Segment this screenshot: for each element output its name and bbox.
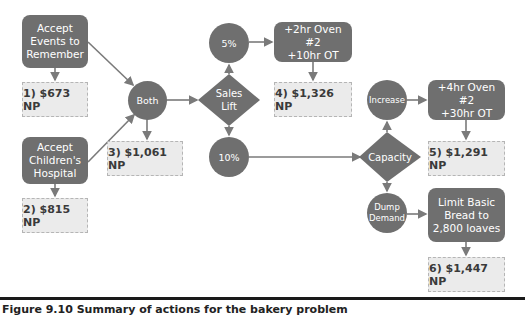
result-6-box: 6) $1,447 NP [428, 257, 505, 292]
result-3-box: 3) $1,061 NP [107, 141, 183, 176]
event-10pct-circle: 10% [209, 137, 249, 177]
edge-accept-events-to-both [88, 42, 133, 85]
result-5-box: 5) $1,291 NP [428, 141, 505, 176]
decision-sales-lift-label: Sales Lift [204, 86, 254, 114]
event-both-circle: Both [128, 81, 167, 120]
event-increase-circle: Increase [367, 80, 407, 120]
result-2-box: 2) $815 NP [22, 198, 88, 233]
action-oven-4hr: +4hr Oven #2 +30hr OT [428, 80, 505, 120]
decision-capacity-label: Capacity [360, 148, 420, 166]
node-accept-events-to-remember: Accept Events to Remember [22, 15, 88, 68]
result-4-box: 4) $1,326 NP [274, 82, 352, 117]
event-5pct-circle: 5% [209, 23, 249, 63]
figure-caption: Figure 9.10 Summary of actions for the b… [2, 303, 348, 316]
result-1-box: 1) $673 NP [22, 82, 88, 117]
node-accept-childrens-hospital: Accept Children's Hospital [22, 137, 88, 184]
action-limit-basic-bread: Limit Basic Bread to 2,800 loaves [428, 188, 505, 242]
figure-rule [0, 297, 525, 300]
action-oven-2hr: +2hr Oven #2 +10hr OT [274, 22, 352, 62]
event-dump-demand-circle: Dump Demand [367, 193, 407, 233]
